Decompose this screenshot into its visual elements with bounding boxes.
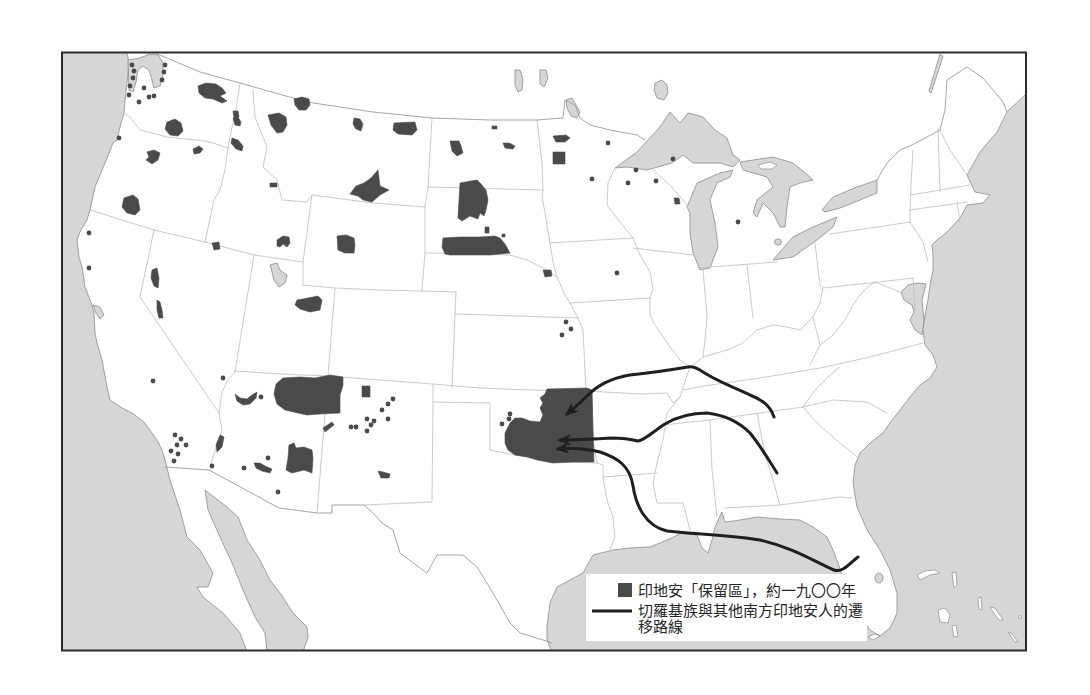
reservation-point bbox=[259, 395, 264, 400]
reservation-point bbox=[276, 490, 281, 495]
reservation-point bbox=[354, 425, 359, 430]
reservation-point bbox=[131, 76, 136, 81]
reservation-point bbox=[169, 449, 174, 454]
lake-okeechobee bbox=[875, 573, 883, 583]
reservation-point bbox=[560, 333, 565, 338]
reservation-point bbox=[369, 423, 374, 428]
map: 印地安「保留區」，約一九〇〇年 切羅基族與其他南方印地安人的遷 移路線 bbox=[0, 0, 1090, 695]
island bbox=[1019, 616, 1022, 619]
legend-reservation-label: 印地安「保留區」，約一九〇〇年 bbox=[638, 582, 856, 600]
reservation-point bbox=[564, 320, 569, 325]
reservation-point bbox=[162, 70, 167, 75]
reservation-point bbox=[671, 157, 676, 162]
reservation-area bbox=[502, 234, 505, 237]
reservation-point bbox=[500, 422, 505, 427]
reservation-point bbox=[87, 266, 92, 271]
reservation-point bbox=[152, 94, 157, 99]
reservation-point bbox=[654, 179, 659, 184]
legend: 印地安「保留區」，約一九〇〇年 切羅基族與其他南方印地安人的遷 移路線 bbox=[586, 574, 867, 641]
reservation-area bbox=[553, 152, 565, 164]
reservation-point bbox=[147, 95, 152, 100]
legend-reservation-swatch bbox=[618, 583, 632, 597]
reservation-point bbox=[590, 177, 595, 182]
reservation-point bbox=[386, 417, 391, 422]
reservation-point bbox=[736, 220, 741, 225]
reservation-point bbox=[242, 466, 247, 471]
reservation-point bbox=[391, 397, 396, 402]
reservation-point bbox=[634, 168, 639, 173]
reservation-point bbox=[266, 456, 271, 461]
reservation-point bbox=[132, 69, 137, 74]
reservation-point bbox=[151, 379, 156, 384]
reservation-point bbox=[176, 452, 181, 457]
reservation-point bbox=[221, 376, 226, 381]
reservation-point bbox=[507, 417, 512, 422]
reservation-point bbox=[569, 327, 574, 332]
reservation-point bbox=[365, 417, 370, 422]
reservation-point bbox=[137, 100, 142, 105]
reservation-point bbox=[626, 181, 631, 186]
reservation-point bbox=[606, 141, 611, 146]
reservation-point bbox=[615, 271, 620, 276]
lake-st-clair bbox=[775, 239, 782, 245]
reservation-point bbox=[372, 419, 377, 424]
reservation-point bbox=[163, 63, 168, 68]
reservation-point bbox=[386, 402, 391, 407]
reservation-area bbox=[393, 122, 417, 135]
reservation-point bbox=[175, 443, 180, 448]
reservation-area bbox=[674, 198, 680, 204]
reservation-point bbox=[173, 433, 178, 438]
reservation-point bbox=[508, 412, 513, 417]
reservation-area bbox=[274, 375, 343, 415]
reservation-point bbox=[184, 443, 189, 448]
reservation-area bbox=[492, 126, 497, 129]
reservation-point bbox=[142, 86, 147, 91]
reservation-area bbox=[337, 235, 355, 253]
reservation-area bbox=[270, 183, 277, 187]
reservation-point bbox=[160, 78, 165, 83]
reservation-point bbox=[87, 231, 92, 236]
reservation-point bbox=[179, 437, 184, 442]
reservation-point bbox=[349, 425, 354, 430]
reservation-area bbox=[485, 227, 489, 233]
reservation-point bbox=[128, 84, 133, 89]
reservation-point bbox=[380, 408, 385, 413]
reservation-area bbox=[442, 236, 510, 255]
reservation-point bbox=[117, 136, 122, 141]
reservation-point bbox=[130, 63, 135, 68]
reservation-point bbox=[172, 459, 177, 464]
reservation-point bbox=[365, 429, 370, 434]
reservation-point bbox=[210, 464, 215, 469]
map-body bbox=[62, 52, 1028, 652]
island bbox=[978, 597, 982, 610]
reservation-point bbox=[127, 93, 132, 98]
reservation-area bbox=[362, 386, 370, 397]
legend-route-label-line2: 移路線 bbox=[638, 618, 683, 636]
